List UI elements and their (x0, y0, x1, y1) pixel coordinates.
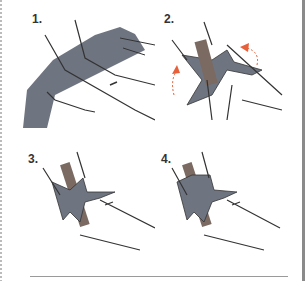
page-left-border (0, 0, 2, 281)
divider-rule (30, 276, 288, 277)
step-4-panel: 4. (152, 140, 302, 275)
page-right-border (302, 0, 305, 281)
step-2-panel: 2. (152, 0, 302, 135)
step-2-illustration (152, 0, 302, 135)
step-1-illustration (5, 0, 155, 135)
step-3-illustration (5, 140, 155, 275)
step-1-panel: 1. (5, 0, 155, 135)
step-4-illustration (152, 140, 302, 275)
step-3-panel: 3. (5, 140, 155, 275)
